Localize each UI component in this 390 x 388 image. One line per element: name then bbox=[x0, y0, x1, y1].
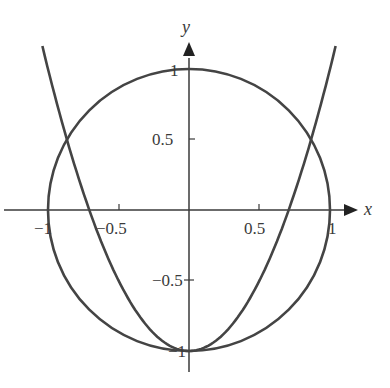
y-tick-label: −0.5 bbox=[152, 271, 183, 290]
x-axis-label: x bbox=[363, 199, 372, 219]
x-axis-arrow-icon bbox=[344, 204, 358, 216]
y-tick-label: −1 bbox=[168, 342, 186, 361]
x-tick-label: 1 bbox=[328, 219, 337, 238]
y-tick-label: 1 bbox=[170, 61, 179, 80]
y-axis-label: y bbox=[180, 17, 190, 37]
x-tick-label: −1 bbox=[34, 219, 52, 238]
x-tick-label: −0.5 bbox=[96, 219, 127, 238]
plot: y x −1 −0.5 0.5 1 1 0.5 −0.5 −1 bbox=[0, 0, 390, 388]
y-tick-label: 0.5 bbox=[152, 130, 173, 149]
y-axis-arrow-icon bbox=[183, 42, 195, 56]
x-tick-label: 0.5 bbox=[244, 219, 265, 238]
